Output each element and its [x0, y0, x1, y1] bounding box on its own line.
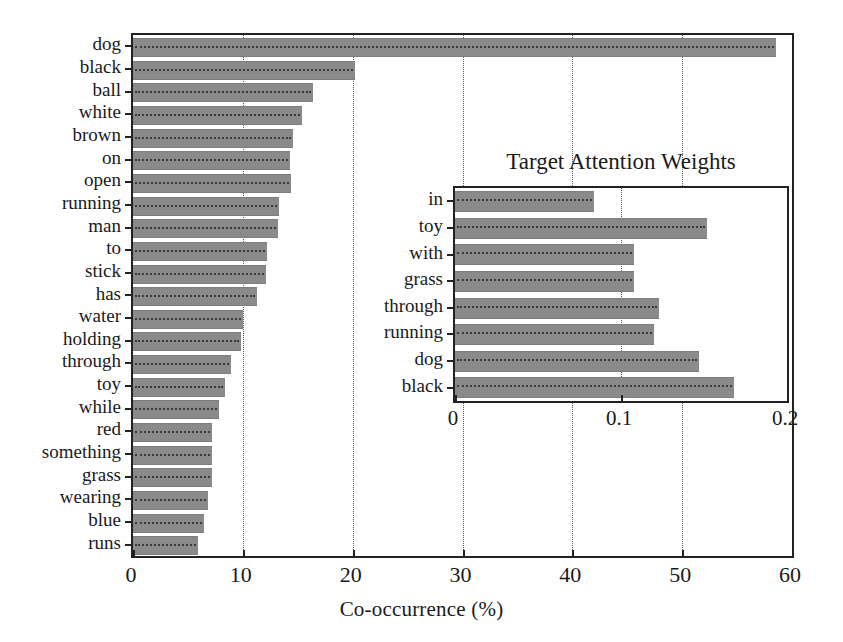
bar-row: [455, 295, 787, 320]
bar-row: [455, 215, 787, 240]
y-axis-tick: [125, 340, 133, 342]
bar-with: [455, 244, 634, 265]
bar-running: [455, 324, 654, 345]
bar-through: [133, 355, 231, 374]
y-axis-label-to: to: [106, 238, 121, 257]
bar-white: [133, 106, 302, 125]
y-axis-tick: [125, 385, 133, 387]
y-axis-tick: [125, 113, 133, 115]
y-axis-label-something: something: [42, 442, 121, 461]
y-axis-label-on: on: [102, 148, 121, 167]
y-axis-label-black: black: [402, 376, 443, 395]
x-tick-label: 60: [779, 562, 801, 588]
bar-dog: [455, 351, 699, 372]
bar-row: [455, 241, 787, 266]
y-axis-label-through: through: [384, 296, 443, 315]
y-axis-tick: [447, 387, 455, 389]
x-axis-tick: [787, 395, 789, 402]
bar-runs: [133, 536, 198, 555]
bar-row: [133, 465, 792, 488]
bar-stick: [133, 265, 266, 284]
y-axis-tick: [125, 68, 133, 70]
bar-dog: [133, 38, 776, 57]
y-axis-tick: [447, 280, 455, 282]
y-axis-tick: [125, 498, 133, 500]
x-tick-label: 40: [559, 562, 581, 588]
bar-has: [133, 287, 257, 306]
y-axis-tick: [125, 159, 133, 161]
bar-row: [133, 511, 792, 534]
y-axis-tick: [125, 272, 133, 274]
y-axis-label-toy: toy: [97, 374, 121, 393]
x-tick-label: 30: [450, 562, 472, 588]
x-axis-tick: [243, 550, 245, 557]
y-axis-label-toy: toy: [419, 216, 443, 235]
y-axis-tick: [125, 521, 133, 523]
bar-row: [455, 321, 787, 346]
bar-grass: [455, 271, 634, 292]
bar-something: [133, 446, 212, 465]
bar-man: [133, 219, 278, 238]
y-axis-tick: [125, 91, 133, 93]
bar-toy: [133, 378, 225, 397]
bar-on: [133, 151, 290, 170]
x-axis-tick: [572, 550, 574, 557]
y-axis-label-black: black: [80, 57, 121, 76]
y-axis-label-grass: grass: [82, 465, 121, 484]
y-axis-tick: [125, 249, 133, 251]
y-axis-tick: [447, 227, 455, 229]
bar-running: [133, 197, 279, 216]
y-axis-label-white: white: [79, 102, 121, 121]
bar-red: [133, 423, 212, 442]
bar-grass: [133, 468, 212, 487]
y-axis-label-holding: holding: [63, 329, 121, 348]
y-axis-label-dog: dog: [93, 34, 122, 53]
y-axis-tick: [125, 204, 133, 206]
y-axis-label-with: with: [409, 243, 443, 262]
x-axis-tick: [463, 550, 465, 557]
x-tick-label: 50: [669, 562, 691, 588]
y-axis-tick: [447, 254, 455, 256]
x-axis-tick: [455, 395, 457, 402]
y-axis-tick: [125, 294, 133, 296]
bar-toy: [455, 218, 707, 239]
y-axis-label-man: man: [88, 216, 121, 235]
main-y-axis-labels: dogblackballwhitebrownonopenrunningmanto…: [0, 33, 131, 558]
y-axis-label-dog: dog: [415, 349, 444, 368]
bar-row: [133, 35, 792, 58]
y-axis-label-brown: brown: [72, 125, 121, 144]
y-axis-label-open: open: [84, 170, 121, 189]
y-axis-tick: [125, 362, 133, 364]
bar-row: [455, 268, 787, 293]
y-axis-tick: [125, 317, 133, 319]
y-axis-label-wearing: wearing: [60, 487, 121, 506]
bar-row: [455, 348, 787, 373]
x-axis-tick: [353, 550, 355, 557]
y-axis-label-running: running: [62, 193, 121, 212]
bar-row: [133, 488, 792, 511]
y-axis-tick: [125, 430, 133, 432]
bar-row: [133, 443, 792, 466]
y-axis-tick: [125, 181, 133, 183]
bar-open: [133, 174, 291, 193]
bar-ball: [133, 83, 313, 102]
bar-water: [133, 310, 243, 329]
figure-canvas: dogblackballwhitebrownonopenrunningmanto…: [0, 0, 843, 642]
y-axis-label-through: through: [62, 351, 121, 370]
x-axis-tick: [621, 395, 623, 402]
bar-row: [133, 58, 792, 81]
bar-black: [133, 61, 355, 80]
y-axis-label-ball: ball: [93, 80, 122, 99]
x-axis-tick: [682, 550, 684, 557]
bar-to: [133, 242, 267, 261]
y-axis-tick: [125, 453, 133, 455]
bar-through: [455, 298, 659, 319]
y-axis-label-runs: runs: [88, 533, 121, 552]
y-axis-tick: [447, 307, 455, 309]
x-tick-label: 10: [230, 562, 252, 588]
inset-x-tick-labels: 00.10.2: [453, 406, 789, 434]
bar-holding: [133, 332, 241, 351]
y-axis-label-blue: blue: [88, 510, 121, 529]
bar-row: [133, 80, 792, 103]
x-tick-label: 0.1: [606, 406, 632, 431]
